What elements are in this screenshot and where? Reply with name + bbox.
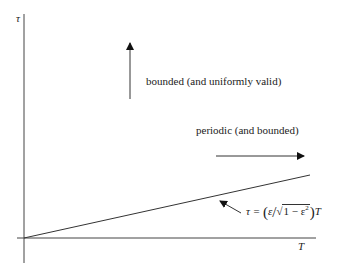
pointer-arrow-icon [220,201,241,213]
periodic-region-label: periodic (and bounded) [196,124,299,136]
eq-var: T [315,205,321,217]
eq-lhs: τ = [246,205,263,217]
eq-radicand: 1 − ε [283,205,305,217]
eq-superscript: 2 [305,204,309,212]
boundary-equation: τ = (ε/√1 − ε2)T [246,204,321,221]
x-axis-label: T [298,240,304,252]
diagram-canvas [0,0,339,273]
y-axis-label: τ [16,12,20,24]
bounded-region-label: bounded (and uniformly valid) [146,75,281,87]
